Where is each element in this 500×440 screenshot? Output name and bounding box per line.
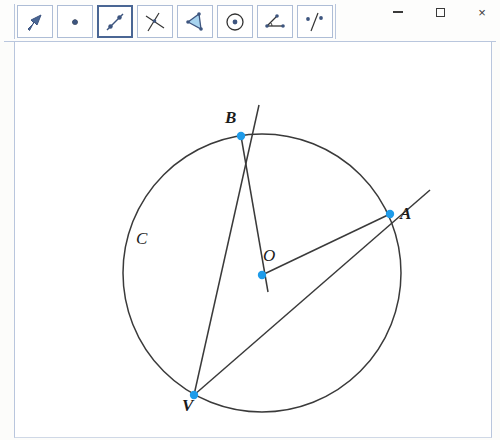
point-icon	[63, 10, 87, 34]
label-point-B: B	[225, 108, 236, 128]
tool-button-move[interactable]	[17, 5, 53, 38]
segment-icon	[103, 10, 127, 34]
reflect-line-icon	[303, 10, 327, 34]
line-V-A[interactable]	[194, 190, 430, 395]
label-point-V: V	[182, 396, 193, 416]
arrow-pointer-icon	[23, 10, 47, 34]
label-point-O: O	[263, 246, 275, 266]
segment-O-A[interactable]	[262, 214, 390, 275]
tool-button-polygon[interactable]	[177, 5, 213, 38]
geometry-canvas[interactable]: B A O V C	[14, 42, 492, 438]
tool-button-intersect[interactable]	[137, 5, 173, 38]
window-controls: ×	[390, 4, 490, 20]
polygon-icon	[183, 10, 207, 34]
minimize-button[interactable]	[390, 4, 406, 20]
minimize-icon	[393, 11, 403, 13]
label-circle-C: C	[136, 229, 147, 249]
point-B[interactable]	[237, 132, 245, 140]
perpendicular-lines-icon	[143, 10, 167, 34]
line-B-V[interactable]	[194, 105, 259, 395]
label-point-A: A	[400, 204, 411, 224]
point-O[interactable]	[258, 271, 266, 279]
close-icon: ×	[478, 6, 486, 19]
tool-button-circle[interactable]	[217, 5, 253, 38]
tool-button-reflect[interactable]	[297, 5, 333, 38]
maximize-icon	[436, 8, 445, 17]
application-window: ×	[0, 0, 500, 440]
tool-button-line[interactable]	[97, 5, 133, 38]
close-button[interactable]: ×	[474, 4, 490, 20]
point-A[interactable]	[386, 210, 394, 218]
circle-center-icon	[223, 10, 247, 34]
angle-icon	[263, 10, 287, 34]
toolbar: ×	[0, 0, 500, 41]
tool-strip	[14, 4, 336, 39]
tool-button-point[interactable]	[57, 5, 93, 38]
geometry-drawing	[14, 42, 492, 438]
tool-button-angle[interactable]	[257, 5, 293, 38]
maximize-button[interactable]	[432, 4, 448, 20]
segment-B-O[interactable]	[241, 136, 268, 292]
